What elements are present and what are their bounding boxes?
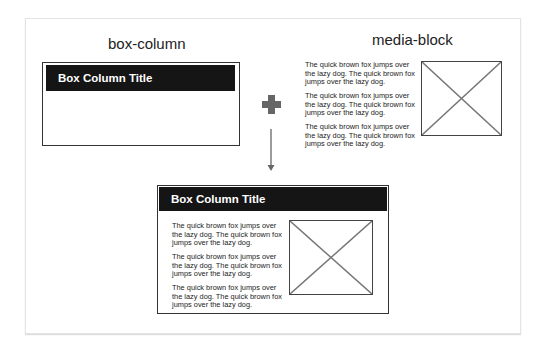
result-box-column: Box Column Title The quick brown fox jum… — [157, 185, 389, 314]
box-column-label: box-column — [108, 35, 186, 52]
placeholder-image-icon — [289, 220, 373, 295]
media-paragraph: The quick brown fox jumps over the lazy … — [305, 92, 415, 118]
result-paragraph: The quick brown fox jumps over the lazy … — [172, 253, 284, 279]
result-paragraph: The quick brown fox jumps over the lazy … — [172, 222, 284, 248]
box-column-example: Box Column Title — [42, 62, 240, 146]
result-title: Box Column Title — [159, 187, 387, 211]
media-block-text: The quick brown fox jumps over the lazy … — [305, 61, 415, 154]
result-text: The quick brown fox jumps over the lazy … — [172, 222, 284, 315]
box-column-title: Box Column Title — [46, 65, 235, 91]
plus-icon — [262, 95, 281, 114]
result-paragraph: The quick brown fox jumps over the lazy … — [172, 284, 284, 310]
arrow-down-icon — [266, 129, 276, 172]
media-paragraph: The quick brown fox jumps over the lazy … — [305, 61, 415, 87]
media-block-label: media-block — [372, 31, 453, 48]
placeholder-image-icon — [421, 61, 502, 136]
media-paragraph: The quick brown fox jumps over the lazy … — [305, 123, 415, 149]
